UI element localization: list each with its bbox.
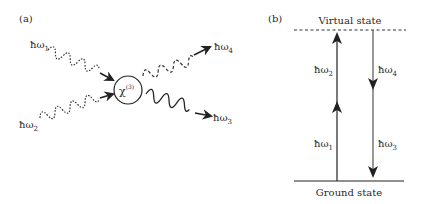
panel-a-label: (a) bbox=[19, 13, 33, 24]
photon-w4-wave bbox=[141, 47, 210, 81]
arrow-icon bbox=[194, 47, 210, 55]
photon-w1-wave bbox=[46, 45, 113, 80]
down-w3-label: ħω3 bbox=[378, 138, 397, 152]
ground-state-label: Ground state bbox=[316, 187, 382, 198]
panel-b-label: (b) bbox=[268, 13, 282, 24]
up-w2-label: ħω2 bbox=[314, 64, 333, 78]
virtual-state-label: Virtual state bbox=[318, 15, 382, 26]
photon-w4-label: ħω4 bbox=[214, 41, 234, 55]
four-wave-mixing-diagram: (a) ħω1 ħω2 χ(3) ħω4 ħω3 (b) Vi bbox=[0, 0, 426, 204]
photon-w3-wave bbox=[144, 88, 211, 116]
photon-w1-label: ħω1 bbox=[30, 39, 49, 53]
photon-w2-wave bbox=[38, 92, 113, 123]
arrow-icon bbox=[100, 94, 113, 98]
up-w1-label: ħω1 bbox=[314, 138, 333, 152]
arrow-icon bbox=[195, 113, 211, 116]
photon-w3-label: ħω3 bbox=[213, 112, 232, 126]
down-w4-label: ħω4 bbox=[378, 64, 398, 78]
photon-w2-label: ħω2 bbox=[19, 119, 38, 133]
arrow-icon bbox=[100, 73, 113, 80]
panel-b: (b) Virtual state Ground state ħω2 ħω1 ħ… bbox=[268, 13, 406, 198]
panel-a: (a) ħω1 ħω2 χ(3) ħω4 ħω3 bbox=[19, 13, 234, 133]
